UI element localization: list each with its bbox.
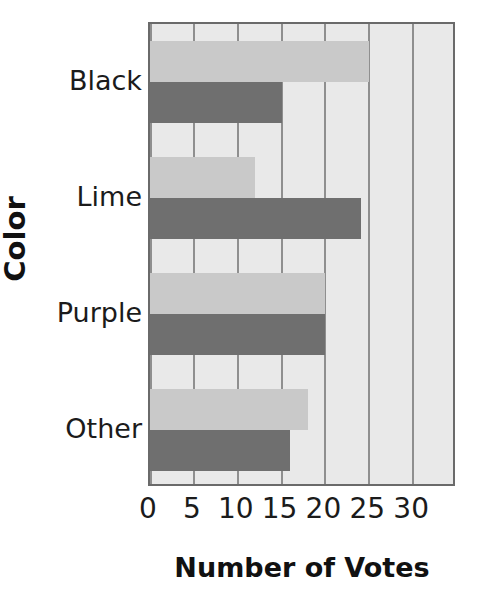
y-tick-label-lime: Lime (40, 181, 142, 212)
bar-lime-light (150, 157, 255, 198)
bar-black-dark (150, 82, 282, 123)
x-tick-label-10: 10 (218, 492, 254, 525)
y-tick-label-other: Other (40, 413, 142, 444)
x-tick-label-5: 5 (183, 492, 201, 525)
y-tick-label-purple: Purple (40, 297, 142, 328)
x-tick-label-30: 30 (393, 492, 429, 525)
bar-other-light (150, 389, 308, 430)
gridline-30 (412, 24, 414, 484)
x-tick-label-25: 25 (349, 492, 385, 525)
gridline-20 (324, 24, 326, 484)
bar-purple-light (150, 273, 325, 314)
bar-other-dark (150, 430, 290, 471)
bar-black-light (150, 41, 369, 82)
plot-area (148, 22, 455, 486)
x-tick-label-20: 20 (306, 492, 342, 525)
bar-lime-dark (150, 198, 361, 239)
x-axis-title: Number of Votes (130, 552, 474, 583)
y-tick-label-black: Black (40, 65, 142, 96)
y-axis-tick-labels: BlackLimePurpleOther (40, 22, 142, 486)
x-tick-label-15: 15 (262, 492, 298, 525)
bar-purple-dark (150, 314, 325, 355)
gridline-25 (368, 24, 370, 484)
bar-chart: Color BlackLimePurpleOther 051015202530 … (0, 0, 484, 606)
y-axis-title: Color (0, 179, 32, 299)
x-axis-tick-labels: 051015202530 (148, 492, 455, 530)
x-tick-label-0: 0 (139, 492, 157, 525)
